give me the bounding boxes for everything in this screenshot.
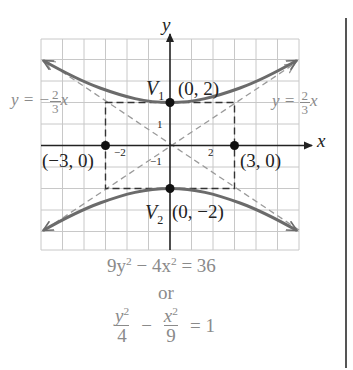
- asymptote-right-prefix: y =: [272, 91, 300, 110]
- frac1-exp: 2: [123, 305, 129, 317]
- vertex-v1-dot: [166, 98, 175, 107]
- tick-x-neg2: −2: [114, 146, 126, 158]
- equation-normalized: y2 4 − x2 9 = 1: [113, 306, 215, 345]
- vertex-v1-coord: (0, 2): [178, 78, 219, 100]
- vertex-v2-sub: 2: [157, 213, 163, 227]
- eq-minus: −: [141, 315, 152, 337]
- eq-rhs: = 1: [190, 315, 215, 337]
- asymptote-left-prefix: y = −: [11, 90, 50, 109]
- vertex-v2-label: V2: [145, 201, 163, 228]
- frac1-den: 4: [115, 325, 129, 345]
- vertex-v2-coord: (0, −2): [172, 201, 224, 223]
- vertex-v2-name: V: [145, 201, 157, 223]
- eq-term-c: = 36: [177, 255, 216, 276]
- asymptote-right-den: 3: [300, 102, 311, 116]
- fraction-y: y2 4: [113, 306, 131, 345]
- vertex-v1-sub: 1: [158, 89, 164, 103]
- connector-or: or: [158, 282, 174, 304]
- vertex-v1-label: V1: [146, 77, 164, 104]
- column-divider: [345, 18, 347, 368]
- asymptote-left-var: x: [61, 90, 69, 109]
- point-right-label: (3, 0): [240, 150, 281, 172]
- tick-x-pos2: 2: [208, 146, 214, 158]
- point-left-label: (−3, 0): [42, 150, 94, 172]
- fraction-x: x2 9: [162, 306, 180, 345]
- asymptote-left-den: 3: [50, 101, 61, 115]
- eq-term-a: 9y: [107, 255, 126, 276]
- frac2-exp: 2: [172, 305, 178, 317]
- point-right-dot: [230, 141, 239, 150]
- vertex-v2-dot: [166, 184, 175, 193]
- tick-y-neg1: −1: [150, 155, 162, 167]
- equation-standard: 9y2 − 4x2 = 36: [107, 255, 216, 277]
- frac2-den: 9: [164, 325, 178, 345]
- asymptote-right-label: y = 23x: [272, 89, 318, 116]
- point-left-dot: [101, 141, 110, 150]
- asymptote-right-num: 2: [300, 89, 311, 102]
- x-axis-label: x: [317, 130, 325, 152]
- asymptote-right-var: x: [310, 91, 318, 110]
- asymptote-left-label: y = −23x: [11, 88, 68, 115]
- hyperbola-figure: y x −2 2 1 −1 V1 (0, 2) V2 (0, −2) (−3, …: [0, 0, 353, 370]
- vertex-v1-name: V: [146, 77, 158, 99]
- y-axis-label: y: [162, 14, 170, 36]
- eq-term-b: − 4x: [132, 255, 171, 276]
- asymptote-left-num: 2: [50, 88, 61, 101]
- tick-y-pos1: 1: [157, 118, 163, 130]
